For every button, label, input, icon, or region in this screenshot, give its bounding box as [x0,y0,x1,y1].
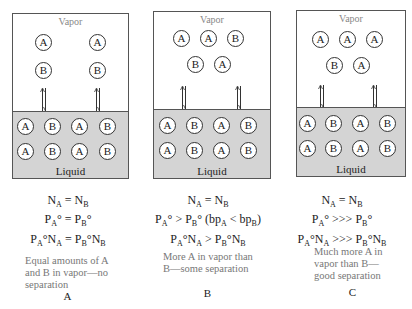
container-a: Vapor A A B B A B A B A B A B Liquid [12,13,129,179]
liquid-molecule: B [379,140,396,157]
container-c: Vapor A A A B A A B A B A B A B Liquid [296,10,406,177]
equations-a: NA = NB PA° = PB° PA°NA = PB°NB [0,193,136,251]
equilibrium-arrow-icon [40,87,46,113]
equilibrium-arrow-icon [94,87,100,113]
vapor-molecule-a: A [339,31,356,48]
panel-letter-b: B [195,287,220,299]
panel-letter-c: C [340,286,365,298]
liquid-molecule: A [71,143,88,160]
liquid-molecule: B [99,118,116,135]
liquid-molecule: A [71,118,88,135]
liquid-molecule: B [44,118,61,135]
equilibrium-arrow-icon [235,85,241,111]
liquid-label: Liquid [154,165,270,177]
vapor-molecule-b: B [187,56,204,73]
liquid-molecule: A [213,142,230,159]
liquid-region: A B A B A B A B Liquid [13,111,128,178]
liquid-molecule: B [325,140,342,157]
vapor-label: Vapor [297,13,405,24]
liquid-molecule: B [325,115,342,132]
equation-mole-fraction: NA = NB [138,193,278,212]
vapor-molecule-b: B [35,62,52,79]
liquid-region: A B A B A B A B Liquid [297,107,405,176]
vapor-molecule-b: B [227,30,244,47]
equations-b: NA = NB PA° > PB° (bpA < bpB) PA°NA > PB… [138,193,278,251]
description-a: Equal amounts of A and B in vapor—no sep… [25,255,135,291]
liquid-molecule: B [186,117,203,134]
liquid-molecule: A [17,143,34,160]
liquid-molecule: A [352,115,369,132]
liquid-region: A B A B A B A B Liquid [154,109,270,178]
vapor-label: Vapor [154,14,270,25]
liquid-molecule: B [240,142,257,159]
equation-vapor-pressure: PA° = PB° [0,212,136,231]
liquid-label: Liquid [297,163,405,175]
liquid-molecule: A [213,117,230,134]
liquid-molecule: B [44,143,61,160]
vapor-molecule-a: A [173,30,190,47]
liquid-molecule: A [159,117,176,134]
equation-partial-pressure: PA°NA > PB°NB [138,232,278,251]
equations-c: NA = NB PA° >>> PB° PA°NA >>> PB°NB [272,193,412,251]
liquid-label: Liquid [13,165,128,177]
equilibrium-arrow-icon [180,85,186,111]
vapor-molecule-a: A [366,31,383,48]
vapor-molecule-a: A [312,31,329,48]
liquid-molecule: B [186,142,203,159]
liquid-molecule: A [159,142,176,159]
vapor-molecule-b: B [89,62,106,79]
description-b: More A in vapor than B—some separation [163,251,278,275]
liquid-molecule: B [240,117,257,134]
vapor-label: Vapor [13,16,128,27]
liquid-molecule: A [352,140,369,157]
liquid-molecule: A [299,140,316,157]
equation-partial-pressure: PA°NA = PB°NB [0,232,136,251]
panel-letter-a: A [55,290,80,302]
vapor-molecule-a: A [353,57,370,74]
liquid-molecule: B [99,143,116,160]
equation-mole-fraction: NA = NB [272,193,412,212]
equation-vapor-pressure: PA° >>> PB° [272,212,412,231]
liquid-molecule: A [17,118,34,135]
equation-mole-fraction: NA = NB [0,193,136,212]
vapor-molecule-b: B [326,57,343,74]
container-b: Vapor A A B B A A B A B A B A B Liquid [153,11,271,179]
description-c: Much more A in vapor than B— good separa… [314,246,409,282]
equation-vapor-pressure: PA° > PB° (bpA < bpB) [138,212,278,231]
vapor-molecule-a: A [214,56,231,73]
vapor-molecule-a: A [89,34,106,51]
liquid-molecule: B [379,115,396,132]
liquid-molecule: A [299,115,316,132]
vapor-molecule-a: A [35,34,52,51]
vapor-molecule-a: A [200,30,217,47]
